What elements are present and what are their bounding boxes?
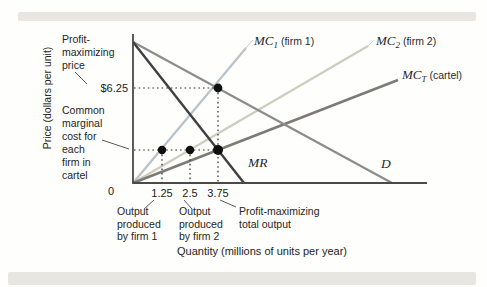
demand-curve-label: D xyxy=(381,156,391,172)
mct-symbol: MC xyxy=(402,67,422,82)
mc2-suffix: (firm 2) xyxy=(400,35,436,47)
mc1-suffix: (firm 1) xyxy=(278,35,314,47)
firm2-ann-line3: by firm 2 xyxy=(179,230,223,243)
firm2-point xyxy=(186,146,194,154)
firm2-ann-line2: produced xyxy=(179,218,223,231)
price-value-label: $6.25 xyxy=(88,82,128,94)
mc1-curve-label: MC1 (firm 1) xyxy=(254,33,314,50)
common-cost-line2: marginal xyxy=(62,117,105,130)
tick-2-5: 2.5 xyxy=(179,187,201,199)
common-cost-line3: cost for xyxy=(62,130,105,143)
mc2-symbol: MC xyxy=(376,33,396,48)
firm1-ann-line3: by firm 1 xyxy=(117,230,161,243)
firm2-ann-line1: Output xyxy=(179,205,223,218)
price-point xyxy=(214,84,223,93)
mct-curve-label: MCT (cartel) xyxy=(402,67,462,84)
cartel-economics-figure: Price (dollars per unit) Profit- maximiz… xyxy=(0,0,487,287)
mct-suffix: (cartel) xyxy=(427,69,463,81)
origin-label: 0 xyxy=(105,185,117,197)
tick-1-25: 1.25 xyxy=(148,187,176,199)
tick-3-75: 3.75 xyxy=(204,187,232,199)
common-cost-line6: cartel xyxy=(62,169,105,182)
mr-curve-label: MR xyxy=(248,155,268,171)
x-axis-label: Quantity (millions of units per year) xyxy=(177,245,347,257)
common-cost-line4: each xyxy=(62,143,105,156)
profit-price-note-line2: maximizing xyxy=(62,46,115,59)
firm1-point xyxy=(158,146,166,154)
total-ann-line2: total output xyxy=(239,218,320,231)
total-output-annotation: Profit-maximizing total output xyxy=(239,205,320,230)
mc1-symbol: MC xyxy=(254,33,274,48)
profit-price-note-line1: Profit- xyxy=(62,33,115,46)
firm2-output-annotation: Output produced by firm 2 xyxy=(179,205,223,243)
common-cost-line1: Common xyxy=(62,104,105,117)
common-cost-line5: firm in xyxy=(62,156,105,169)
profit-price-pointer xyxy=(75,72,87,84)
mr-mct-intersection-point xyxy=(213,145,223,155)
profit-price-note: Profit- maximizing price xyxy=(62,33,115,72)
mc2-label-pointer xyxy=(368,40,374,46)
common-cost-note: Common marginal cost for each firm in ca… xyxy=(62,104,105,182)
mc1-label-pointer xyxy=(246,40,253,48)
y-axis-label: Price (dollars per unit) xyxy=(41,39,53,157)
firm1-ann-line2: produced xyxy=(117,218,161,231)
common-cost-pointer xyxy=(102,140,129,149)
mc2-curve-label: MC2 (firm 2) xyxy=(376,33,436,50)
total-ann-line1: Profit-maximizing xyxy=(239,205,320,218)
profit-price-note-line3: price xyxy=(62,59,115,72)
firm1-output-annotation: Output produced by firm 1 xyxy=(117,205,161,243)
firm1-ann-line1: Output xyxy=(117,205,161,218)
